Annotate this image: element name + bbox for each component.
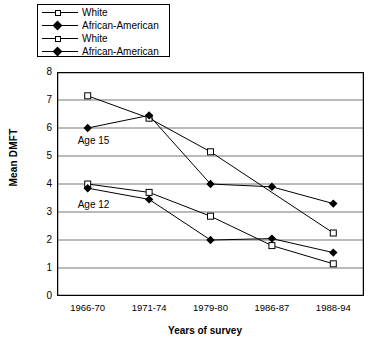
- x-tick-label: 1986-87: [242, 303, 302, 313]
- data-point-open-square: [330, 261, 336, 267]
- legend-label: White: [78, 33, 108, 45]
- series-line: [88, 115, 334, 203]
- data-point-open-square: [330, 230, 336, 236]
- legend-item: White: [42, 33, 169, 45]
- legend-marker-open-square: [42, 33, 78, 45]
- legend-label: African-American: [78, 20, 159, 32]
- data-point-filled-diamond: [329, 248, 337, 256]
- legend-marker-open-square: [42, 7, 78, 19]
- x-tick-label: 1988-94: [303, 303, 363, 313]
- y-tick-label: 5: [36, 151, 52, 161]
- legend-label: African-American: [78, 46, 159, 58]
- data-point-open-square: [85, 93, 91, 99]
- y-tick-label: 3: [36, 207, 52, 217]
- data-point-filled-diamond: [145, 195, 153, 203]
- series-line: [88, 184, 334, 264]
- y-tick-label: 8: [36, 67, 52, 77]
- x-tick-label: 1971-74: [119, 303, 179, 313]
- data-point-filled-diamond: [84, 124, 92, 132]
- x-tick-label: 1966-70: [58, 303, 118, 313]
- x-axis-title: Years of survey: [60, 325, 350, 336]
- legend-label: White: [78, 7, 108, 19]
- data-point-open-square: [146, 189, 152, 195]
- y-axis-title: Mean DMFT: [8, 118, 19, 198]
- data-point-filled-diamond: [268, 234, 276, 242]
- chart-annotation: Age 15: [78, 136, 110, 146]
- y-tick-label: 2: [36, 235, 52, 245]
- data-point-open-square: [208, 213, 214, 219]
- chart-legend: White African-American White African-Ame…: [37, 4, 170, 57]
- legend-item: White: [42, 7, 169, 19]
- plot-area: [57, 72, 364, 296]
- chart-annotation: Age 12: [78, 200, 110, 210]
- data-point-open-square: [269, 243, 275, 249]
- y-tick-label: 7: [36, 95, 52, 105]
- legend-marker-filled-diamond: [42, 20, 78, 32]
- legend-item: African-American: [42, 46, 169, 58]
- legend-marker-filled-diamond: [42, 46, 78, 58]
- legend-item: African-American: [42, 20, 169, 32]
- y-tick-label: 4: [36, 179, 52, 189]
- y-tick-label: 1: [36, 263, 52, 273]
- data-point-filled-diamond: [329, 199, 337, 207]
- data-point-open-square: [208, 149, 214, 155]
- chart-svg: [57, 72, 364, 296]
- data-point-filled-diamond: [206, 236, 214, 244]
- x-tick-label: 1979-80: [181, 303, 241, 313]
- y-tick-label: 6: [36, 123, 52, 133]
- y-tick-label: 0: [36, 291, 52, 301]
